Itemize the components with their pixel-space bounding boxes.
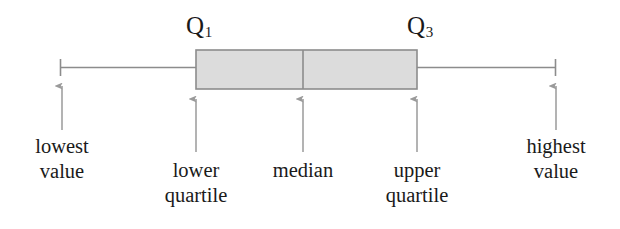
highest-value-caption-line1: highest: [526, 134, 585, 159]
upper-quartile-symbol-subscript: 3: [425, 24, 433, 40]
median-caption-line1: median: [273, 158, 333, 183]
lower-quartile-symbol-base: Q: [186, 12, 204, 39]
lowest-value-caption: lowest value: [35, 134, 89, 184]
lowest-value-caption-line2: value: [35, 159, 89, 184]
highest-value-caption-line2: value: [526, 159, 585, 184]
box-plot-graphic: [0, 0, 620, 229]
lower-quartile-symbol-subscript: 1: [204, 24, 212, 40]
lower-quartile-symbol: Q1: [186, 12, 212, 41]
box-plot-figure: Q1 Q3 lowest value lower quartile median…: [0, 0, 620, 229]
lower-quartile-caption-line2: quartile: [165, 183, 228, 208]
upper-quartile-symbol-base: Q: [407, 12, 425, 39]
highest-value-caption: highest value: [526, 134, 585, 184]
lower-quartile-caption: lower quartile: [165, 158, 228, 208]
upper-quartile-caption: upper quartile: [386, 158, 449, 208]
interquartile-box: [196, 50, 417, 89]
upper-quartile-caption-line1: upper: [386, 158, 449, 183]
upper-quartile-symbol: Q3: [407, 12, 433, 41]
lowest-value-caption-line1: lowest: [35, 134, 89, 159]
upper-quartile-caption-line2: quartile: [386, 183, 449, 208]
median-caption: median: [273, 158, 333, 183]
lower-quartile-caption-line1: lower: [165, 158, 228, 183]
